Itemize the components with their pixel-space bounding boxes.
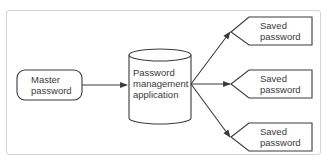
label-line: application: [133, 89, 188, 100]
saved-password-label-3: Saved password: [260, 126, 301, 148]
saved-password-label-1: Saved password: [260, 20, 301, 42]
password-app-label: Password management application: [133, 67, 188, 100]
edge-app-to-saved-3: [191, 84, 230, 137]
label-line: Saved: [260, 20, 301, 31]
label-line: Password: [133, 67, 188, 78]
label-line: Master: [31, 74, 72, 85]
edge-app-to-saved-1: [191, 32, 230, 84]
label-line: Saved: [260, 73, 301, 84]
label-line: Saved: [260, 126, 301, 137]
label-line: password: [260, 31, 301, 42]
label-line: password: [260, 84, 301, 95]
label-line: management: [133, 78, 188, 89]
master-password-label: Master password: [31, 74, 72, 96]
saved-password-label-2: Saved password: [260, 73, 301, 95]
label-line: password: [31, 85, 72, 96]
label-line: password: [260, 137, 301, 148]
